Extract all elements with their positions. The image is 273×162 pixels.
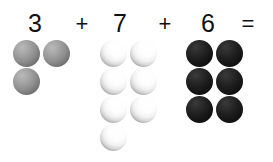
sphere: [100, 96, 127, 123]
sphere: [216, 40, 243, 67]
sphere: [130, 40, 157, 67]
sphere: [43, 40, 70, 67]
sphere: [13, 40, 40, 67]
sphere: [186, 68, 213, 95]
sphere: [216, 96, 243, 123]
equation-plus-icon-2: +: [157, 13, 173, 35]
sphere: [186, 40, 213, 67]
equation-addend-3: 6: [200, 11, 216, 36]
sphere: [216, 68, 243, 95]
sphere: [100, 40, 127, 67]
equation-equals-icon: =: [240, 13, 256, 35]
sphere: [186, 96, 213, 123]
equation-plus-icon-1: +: [74, 13, 90, 35]
counting-exercise-canvas: 3 + 7 + 6 =: [0, 0, 273, 162]
sphere: [130, 96, 157, 123]
sphere: [130, 68, 157, 95]
sphere: [100, 68, 127, 95]
sphere: [100, 124, 127, 151]
sphere: [13, 68, 40, 95]
equation-addend-1: 3: [27, 11, 43, 36]
equation-addend-2: 7: [112, 11, 128, 36]
